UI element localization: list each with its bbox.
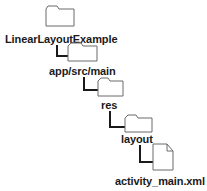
folder-icon [124, 114, 153, 133]
folder-label: app/src/main [49, 66, 116, 77]
file-label: activity_main.xml [115, 176, 205, 187]
folder-label: layout [121, 134, 153, 145]
folder-icon [97, 77, 124, 97]
folder-icon [45, 5, 75, 27]
folder-icon [67, 42, 98, 62]
folder-label: LinearLayoutExample [5, 34, 117, 45]
folder-label: res [101, 100, 117, 111]
file-icon [152, 143, 174, 171]
